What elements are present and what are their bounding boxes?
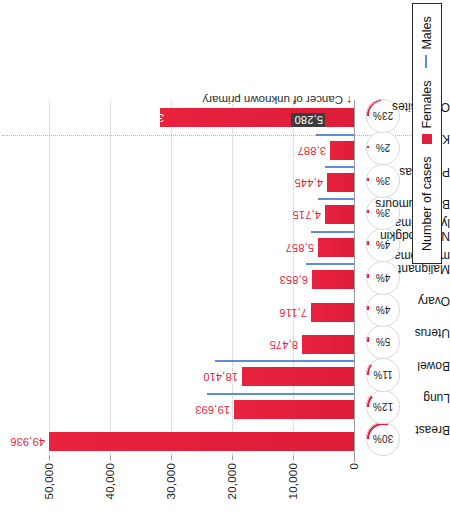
y-tick-mark <box>293 456 294 460</box>
bar-female <box>330 141 354 160</box>
cup-value-label: 5,280 <box>291 113 325 127</box>
percent-label: 3% <box>366 164 400 198</box>
percent-donut: 12% <box>366 390 400 424</box>
y-tick-mark <box>110 456 111 460</box>
bar-value-label: 8,475 <box>270 339 299 351</box>
bar-female <box>312 270 354 289</box>
legend-item-males: Males <box>420 16 434 67</box>
y-tick-label: 20,000 <box>226 463 238 499</box>
bar-group: 3,8872%Kidney <box>18 127 354 159</box>
male-value-line <box>215 360 354 362</box>
bar-group: 49,93630%Breast <box>18 419 354 451</box>
bar-group: 18,41011%Bowel <box>18 354 354 386</box>
bar-female <box>327 173 354 192</box>
bar-value-label: 19,693 <box>195 404 230 416</box>
percent-donut: 4% <box>366 293 400 327</box>
y-tick-label: 30,000 <box>165 463 177 499</box>
y-tick-mark <box>49 456 50 460</box>
y-tick-label: 40,000 <box>104 463 116 499</box>
male-value-line <box>306 263 354 265</box>
bar-value-label: 31,828 <box>129 112 164 124</box>
percent-donut: 11% <box>366 358 400 392</box>
bar-value-label: 49,936 <box>10 436 45 448</box>
bar-value-label: 18,410 <box>203 371 238 383</box>
bar-group: 4,7153%Brain tumours <box>18 192 354 224</box>
bar-female <box>302 335 354 354</box>
bar-value-label: 5,857 <box>286 242 315 254</box>
plot-area: 010,00020,00030,00040,00050,00049,93630%… <box>18 100 354 456</box>
male-value-line <box>311 231 354 233</box>
y-tick-label: 0 <box>348 463 360 470</box>
percent-label: 4% <box>366 293 400 327</box>
bar-value-label: 6,853 <box>280 274 309 286</box>
bar-group: 7,1164%Ovary <box>18 289 354 321</box>
category-label: Bowel <box>417 359 450 372</box>
category-label: Breast <box>415 424 450 437</box>
bar-female <box>318 238 354 257</box>
bar-group: 8,4755%Uterus <box>18 322 354 354</box>
bar-group: 4,4453%Pancreas <box>18 160 354 192</box>
bar-female <box>234 400 354 419</box>
male-value-line <box>318 198 354 200</box>
bar-female <box>311 303 354 322</box>
percent-donut: 30% <box>366 423 400 457</box>
percent-label: 11% <box>366 358 400 392</box>
percent-label: 2% <box>366 131 400 165</box>
bar-female <box>49 432 354 451</box>
bar-value-label: 4,445 <box>294 177 323 189</box>
x-axis-baseline <box>354 100 355 462</box>
category-label: Uterus <box>415 327 450 340</box>
males-line-icon <box>425 55 427 68</box>
percent-label: 30% <box>366 423 400 457</box>
bar-group: 5,8574%Non-Hodgkin lymphoma <box>18 224 354 256</box>
bar-group: 19,69312%Lung <box>18 386 354 418</box>
male-value-line <box>325 166 354 168</box>
percent-donut: 5% <box>366 325 400 359</box>
male-value-line <box>207 393 354 395</box>
legend-label-males: Males <box>420 16 434 49</box>
percent-label: 12% <box>366 390 400 424</box>
category-label: Lung <box>423 392 450 405</box>
percent-donut: 2% <box>366 131 400 165</box>
axis-title-number-of-cases: Number of cases <box>420 157 434 251</box>
bar-female <box>325 205 354 224</box>
chart-legend: Number of cases Females Males <box>412 3 442 264</box>
cup-annotation: ↑ Cancer of unknown primary <box>202 94 352 106</box>
bar-value-label: 7,116 <box>279 307 307 319</box>
bar-group: 6,8534%Malignant melanoma <box>18 257 354 289</box>
bar-value-label: 3,887 <box>298 145 327 157</box>
y-tick-mark <box>232 456 233 460</box>
percent-donut: 3% <box>366 164 400 198</box>
percent-label: 5% <box>366 325 400 359</box>
legend-label-females: Females <box>420 81 434 129</box>
bar-value-label: 4,715 <box>293 209 322 221</box>
y-tick-label: 50,000 <box>43 463 55 499</box>
females-swatch-icon <box>422 134 432 144</box>
legend-item-females: Females <box>420 81 434 144</box>
bar-female <box>242 367 354 386</box>
category-label: Ovary <box>418 295 450 308</box>
y-tick-label: 10,000 <box>287 463 299 499</box>
male-value-line <box>316 134 354 136</box>
y-tick-mark <box>171 456 172 460</box>
